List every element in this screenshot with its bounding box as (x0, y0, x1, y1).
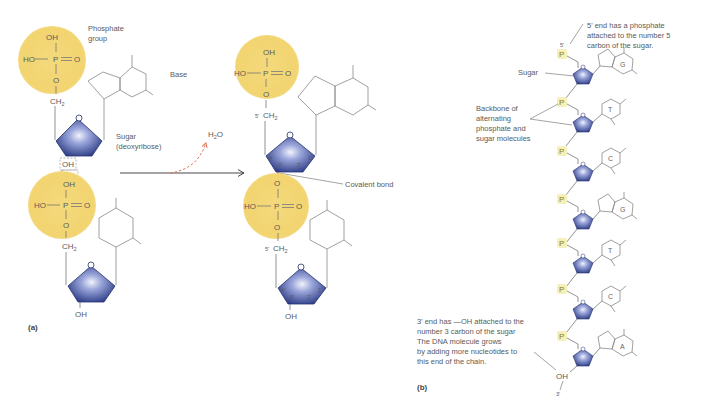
svg-text:G: G (620, 61, 625, 68)
sugar-deoxyribose (56, 119, 102, 156)
svg-text:CH2: CH2 (263, 111, 278, 121)
svg-text:carbon of the sugar.: carbon of the sugar. (587, 41, 653, 50)
svg-text:O: O (296, 202, 302, 211)
base-label: Base (170, 70, 187, 79)
ho-label: HO (23, 55, 35, 64)
three-prime-label: 3' (556, 391, 560, 397)
svg-text:OH: OH (285, 312, 297, 321)
svg-text:3': 3' (278, 162, 282, 168)
svg-text:P: P (559, 285, 564, 294)
svg-text:P: P (559, 195, 564, 204)
sugar-deoxyribose (278, 268, 326, 304)
svg-text:alternating: alternating (476, 114, 511, 123)
svg-text:attached to the number 5: attached to the number 5 (587, 31, 670, 40)
oh-label: OH (46, 33, 58, 42)
svg-text:3': 3' (290, 294, 294, 300)
covalent-bond-label: Covalent bond (345, 180, 393, 189)
strand-unit: P C (557, 146, 626, 181)
svg-text:1': 1' (318, 287, 322, 293)
svg-text:4': 4' (281, 287, 285, 293)
p-label: P (53, 55, 58, 64)
svg-text:C: C (608, 293, 613, 300)
nucleotide-bottom: OH HO P O O CH2 OH (28, 171, 141, 319)
base-pyrimidine (310, 200, 352, 288)
phosphate-group-label: Phosphate (88, 24, 124, 33)
dna-diagram: OH HO P O O CH2 OH Phosphate group Base … (0, 0, 702, 409)
svg-text:P: P (559, 98, 564, 107)
svg-text:O: O (274, 179, 280, 188)
svg-text:P: P (274, 202, 279, 211)
svg-text:2': 2' (297, 162, 301, 168)
svg-text:A: A (620, 343, 625, 350)
svg-text:5': 5' (255, 113, 259, 119)
backbone-annotation: Backbone of alternating phosphate and su… (476, 104, 572, 143)
sugar-deoxyribose (266, 136, 315, 172)
svg-text:The DNA molecule grows: The DNA molecule grows (417, 337, 502, 346)
svg-text:sugar molecules: sugar molecules (476, 134, 531, 143)
base-pyrimidine (99, 198, 141, 285)
strand-unit: P G (557, 47, 637, 84)
svg-text:O: O (84, 201, 90, 210)
product-top-nucleotide: OH HO P O O 5' CH2 4' 3' 2' 1' (234, 35, 376, 172)
svg-text:5' end has a phosphate: 5' end has a phosphate (587, 21, 665, 30)
o-label: O (74, 55, 80, 64)
svg-text:HO: HO (244, 202, 256, 211)
svg-text:(deoxyribose): (deoxyribose) (116, 142, 162, 151)
svg-text:phosphate and: phosphate and (476, 124, 526, 133)
svg-text:2': 2' (307, 294, 311, 300)
panel-b-label: (b) (417, 383, 428, 392)
strand-unit: P A (557, 329, 637, 366)
svg-text:OH: OH (75, 310, 87, 319)
svg-text:3' end has —OH attached to the: 3' end has —OH attached to the (417, 317, 524, 326)
svg-text:CH2: CH2 (62, 242, 77, 252)
svg-text:1': 1' (308, 155, 312, 161)
nucleotide-top: OH HO P O O CH2 OH (18, 26, 153, 188)
svg-text:P: P (559, 147, 564, 156)
svg-text:C: C (608, 155, 613, 162)
sugar-annotation: Sugar (518, 68, 539, 77)
svg-text:by adding more nucleotides to: by adding more nucleotides to (417, 347, 517, 356)
three-prime-annotation: 3' end has —OH attached to the number 3 … (417, 317, 556, 370)
svg-text:G: G (620, 206, 625, 213)
svg-text:P: P (263, 69, 268, 78)
svg-text:Backbone of: Backbone of (476, 104, 519, 113)
strand-unit: P C (557, 284, 626, 319)
water-label: H2O (208, 130, 223, 140)
svg-text:this end of the chain.: this end of the chain. (417, 357, 486, 366)
water-release-arrow (170, 143, 206, 173)
panel-a-label: (a) (28, 323, 38, 332)
svg-text:CH2: CH2 (273, 244, 288, 254)
o-label: O (53, 76, 59, 85)
svg-text:P: P (559, 50, 564, 59)
strand-unit: P G (557, 192, 637, 229)
sugar-label: Sugar (116, 132, 137, 141)
oh-label: OH (63, 180, 75, 189)
svg-text:4': 4' (269, 155, 273, 161)
svg-text:P: P (559, 239, 564, 248)
five-prime-label: 5' (560, 42, 564, 48)
svg-text:HO: HO (34, 201, 46, 210)
svg-text:group: group (88, 34, 107, 43)
dna-strand: 5' P G P (556, 24, 637, 397)
strand-unit: P T (557, 97, 626, 132)
svg-text:O: O (274, 223, 280, 232)
svg-text:O: O (285, 69, 291, 78)
svg-text:OH: OH (263, 48, 275, 57)
oh-label: OH (62, 160, 74, 169)
svg-text:5': 5' (265, 246, 269, 252)
svg-text:number 3 carbon of the sugar: number 3 carbon of the sugar (417, 327, 516, 336)
five-prime-annotation: 5' end has a phosphate attached to the n… (587, 21, 670, 50)
base-purine (298, 65, 376, 155)
svg-text:O: O (263, 90, 269, 99)
svg-text:HO: HO (234, 69, 246, 78)
svg-text:T: T (608, 106, 613, 113)
svg-text:P: P (559, 332, 564, 341)
svg-text:O: O (63, 221, 69, 230)
product-bottom-nucleotide: O HO P O O 5' CH2 4' 3' 2' 1' OH (243, 173, 352, 321)
strand-unit: P T (557, 238, 626, 273)
svg-text:T: T (608, 247, 613, 254)
terminal-oh-label: OH (556, 372, 568, 381)
sugar-deoxyribose (68, 266, 115, 302)
svg-text:P: P (63, 201, 68, 210)
ch2-label: CH2 (50, 97, 65, 107)
